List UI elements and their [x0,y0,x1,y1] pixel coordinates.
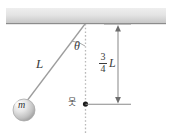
string-length-label: L [36,57,43,70]
angle-theta-label: θ [74,40,80,52]
fraction-denominator: 4 [100,64,107,74]
fraction-numerator: 3 [100,52,107,62]
three-quarter-L-label: 3 4 L [99,52,116,74]
nail-peg-label: 못 [68,98,76,107]
mass-label: m [18,100,25,110]
pendulum-diagram-svg [0,0,171,139]
fraction-three-fourths: 3 4 [99,52,107,74]
fraction-variable-label: L [109,56,116,71]
pendulum-figure: L θ m 3 4 L 못 [0,0,171,139]
ceiling-support [6,8,166,24]
